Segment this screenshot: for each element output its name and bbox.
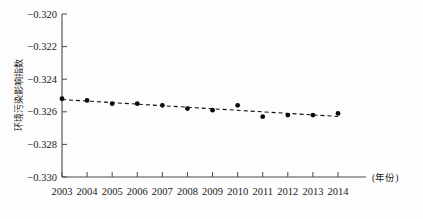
- data-point: [60, 96, 65, 101]
- y-tick-label: −0.326: [27, 106, 57, 117]
- x-axis-tick-labels: 2003200420052006200720082009201020112012…: [52, 186, 350, 197]
- x-tick-label: 2011: [252, 186, 273, 197]
- x-tick-label: 2008: [177, 186, 198, 197]
- chart-container: −0.320−0.322−0.324−0.326−0.328−0.330 200…: [0, 0, 423, 219]
- x-axis-title: (年份): [372, 172, 398, 184]
- x-tick-label: 2006: [127, 186, 148, 197]
- data-point: [160, 103, 165, 108]
- data-point: [311, 113, 316, 118]
- y-axis-tick-labels: −0.320−0.322−0.324−0.326−0.328−0.330: [27, 9, 57, 183]
- x-axis-ticks: [62, 172, 338, 177]
- x-tick-label: 2009: [202, 186, 223, 197]
- x-tick-label: 2013: [302, 186, 323, 197]
- data-point: [135, 101, 140, 106]
- data-point: [85, 98, 90, 103]
- trend-line: [62, 100, 338, 117]
- x-tick-label: 2010: [227, 186, 248, 197]
- y-tick-label: −0.322: [27, 41, 57, 52]
- data-point: [110, 101, 115, 106]
- line-chart-figure: −0.320−0.322−0.324−0.326−0.328−0.330 200…: [0, 0, 423, 219]
- x-tick-label: 2012: [277, 186, 298, 197]
- data-points: [60, 96, 341, 119]
- y-tick-label: −0.328: [27, 139, 57, 150]
- x-tick-label: 2014: [328, 186, 350, 197]
- y-tick-label: −0.324: [27, 74, 57, 85]
- data-point: [260, 114, 265, 119]
- y-tick-label: −0.320: [27, 9, 57, 20]
- x-tick-label: 2003: [52, 186, 73, 197]
- x-tick-label: 2004: [77, 186, 99, 197]
- data-point: [235, 103, 240, 108]
- data-point: [185, 106, 190, 111]
- x-tick-label: 2007: [152, 186, 173, 197]
- data-point: [336, 111, 341, 116]
- data-point: [285, 113, 290, 118]
- data-point: [210, 108, 215, 113]
- y-axis-ticks: [62, 14, 67, 177]
- y-tick-label: −0.330: [27, 172, 57, 183]
- x-tick-label: 2005: [102, 186, 123, 197]
- y-axis-title: 环境污染影响指数: [13, 59, 24, 131]
